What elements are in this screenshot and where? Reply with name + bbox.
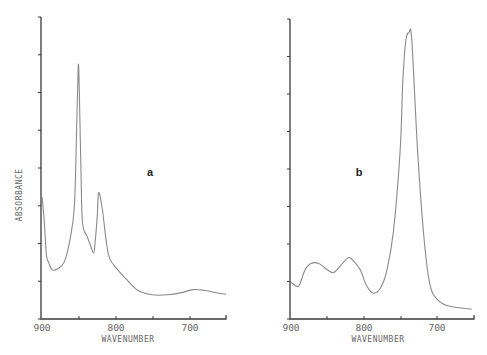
spectrum-curve-a <box>42 64 226 295</box>
x-axis-label-b: WAVENUMBER <box>351 335 404 344</box>
axes-b <box>290 19 474 319</box>
chart-b: 900 800 700 WAVENUMBER b <box>282 19 474 344</box>
x-tick-700-a: 700 <box>181 322 198 333</box>
x-tick-900-a: 900 <box>33 322 50 333</box>
chart-a: 900 800 700 WAVENUMBER a <box>33 17 226 344</box>
y-axis-label: ABSORBANCE <box>15 168 24 221</box>
spectrum-curve-b <box>291 29 472 309</box>
spectra-figure: ABSORBANCE 900 800 700 WAVENUMBER a 900 … <box>0 0 487 355</box>
x-tick-800-b: 800 <box>355 322 372 333</box>
panel-label-b: b <box>356 166 363 178</box>
axes-a <box>41 17 226 319</box>
panel-label-a: a <box>147 166 154 178</box>
x-tick-900-b: 900 <box>282 322 299 333</box>
x-tick-700-b: 700 <box>428 322 445 333</box>
x-axis-label-a: WAVENUMBER <box>101 335 154 344</box>
x-tick-800-a: 800 <box>107 322 124 333</box>
